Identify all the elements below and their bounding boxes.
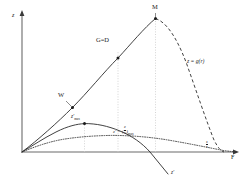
curve-g-solid-branch: [22, 19, 156, 153]
leader-W: [66, 101, 72, 107]
point-label-M: M: [152, 4, 158, 11]
y-axis-label: z: [12, 12, 14, 18]
curve-label-g-of-r: z = g(r): [187, 59, 204, 65]
dot-GD: [117, 57, 120, 60]
label-zr-max-sub: max: [128, 132, 134, 136]
curve-fraction-denominator: r: [206, 145, 208, 149]
curve-g-dashed-branch: [156, 19, 225, 153]
label-zprime-max-sub: max: [74, 117, 80, 121]
plot-canvas: [0, 0, 243, 184]
label-zr-max-lead: z′ = (: [113, 129, 124, 134]
curve-label-z-over-r: zr: [206, 134, 208, 150]
curve-z-over-r: [22, 135, 236, 152]
label-z-over-r-max: z′ = (zr)max: [113, 125, 134, 136]
label-zprime-max: z′max: [71, 114, 80, 121]
dot-zprime-max: [83, 122, 86, 125]
x-axis-end-label-F: F: [231, 154, 234, 160]
point-label-gd: G=D: [96, 37, 109, 44]
y-axis-arrowhead: [20, 10, 25, 16]
dot-M: [154, 17, 157, 20]
curve-zprime: [22, 124, 168, 174]
curve-label-zprime: z′: [171, 170, 174, 175]
point-label-W: W: [58, 92, 64, 99]
label-leaders: [66, 13, 156, 107]
figure-container: z F M G=D W z = g(r) z′max z′ = (zr)max …: [0, 0, 243, 184]
marked-point-dots: [71, 17, 157, 125]
curve-fraction-z-over-r: zr: [206, 140, 208, 149]
